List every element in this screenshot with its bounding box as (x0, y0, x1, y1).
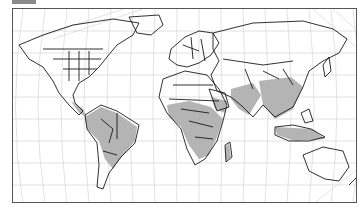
map-tab (12, 0, 36, 4)
world-map (12, 8, 357, 203)
map-svg (13, 9, 357, 203)
